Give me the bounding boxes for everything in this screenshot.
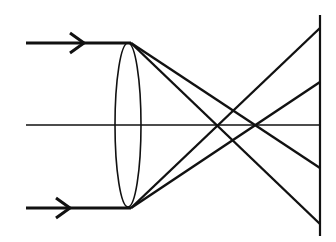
refracted-ray <box>131 43 320 168</box>
refracted-ray <box>131 43 320 224</box>
lens-ray-diagram <box>0 0 336 242</box>
refracted-ray <box>131 82 320 208</box>
refracted-ray <box>131 28 320 208</box>
refracted-rays <box>131 28 320 224</box>
